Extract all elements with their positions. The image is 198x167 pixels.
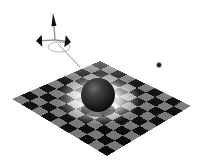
dark-sphere[interactable] <box>81 78 115 112</box>
point-light-marker[interactable] <box>156 62 162 68</box>
scene-canvas[interactable] <box>0 0 198 167</box>
axis-x-left-shaft <box>42 40 55 41</box>
3d-render-viewport[interactable]: Grayscale 3D render of a dark sphere res… <box>0 0 198 167</box>
